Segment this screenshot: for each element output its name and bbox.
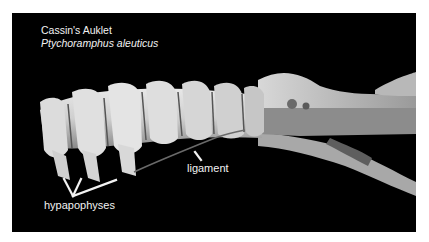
hypapophyses-label: hypapophyses	[44, 199, 115, 211]
hypapophysis-1	[52, 150, 70, 180]
hypapophyses-pointer-1	[64, 179, 73, 196]
common-name: Cassin's Auklet	[41, 24, 158, 37]
hypapophysis-3	[118, 144, 136, 176]
scientific-name: Ptychoramphus aleuticus	[41, 37, 158, 50]
figure-title: Cassin's Auklet Ptychoramphus aleuticus	[41, 24, 158, 50]
skull	[258, 72, 416, 196]
ligament-label: ligament	[187, 162, 229, 174]
ligament-pointer	[195, 152, 201, 160]
vertebral-column	[40, 81, 264, 182]
